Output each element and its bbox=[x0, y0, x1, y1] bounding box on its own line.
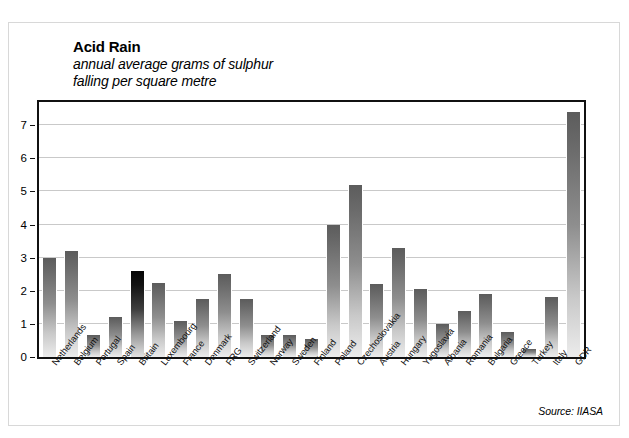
y-tick-label: 6 bbox=[7, 152, 27, 164]
x-axis-labels: NetherlandsBelgiumPortugalSpainBritainLu… bbox=[37, 361, 586, 423]
chart-figure: Acid Rain annual average grams of sulphu… bbox=[8, 22, 620, 426]
page-title: Acid Rain bbox=[73, 38, 273, 56]
chart-title-block: Acid Rain annual average grams of sulphu… bbox=[73, 38, 273, 89]
bar bbox=[42, 258, 57, 357]
y-tick-label: 5 bbox=[7, 185, 27, 197]
y-tick-label: 4 bbox=[7, 219, 27, 231]
y-tick-mark bbox=[30, 191, 35, 192]
chart-subtitle-line-1: annual average grams of sulphur bbox=[73, 56, 273, 73]
y-tick-mark bbox=[30, 158, 35, 159]
y-tick-label: 0 bbox=[7, 351, 27, 363]
y-tick-mark bbox=[30, 357, 35, 358]
y-tick-mark bbox=[30, 291, 35, 292]
chart-subtitle-line-2: falling per square metre bbox=[73, 73, 273, 90]
y-tick-mark bbox=[30, 125, 35, 126]
bar bbox=[326, 225, 341, 357]
bar bbox=[566, 112, 581, 357]
y-tick-mark bbox=[30, 324, 35, 325]
bar bbox=[348, 185, 363, 357]
y-tick-label: 7 bbox=[7, 119, 27, 131]
y-tick-label: 3 bbox=[7, 252, 27, 264]
bar-series bbox=[39, 102, 584, 357]
y-tick-mark bbox=[30, 225, 35, 226]
source-attribution: Source: IIASA bbox=[538, 405, 603, 417]
y-tick-label: 2 bbox=[7, 285, 27, 297]
plot-area bbox=[37, 100, 586, 359]
y-tick-label: 1 bbox=[7, 318, 27, 330]
y-tick-mark bbox=[30, 258, 35, 259]
bar bbox=[239, 299, 254, 357]
y-axis: 01234567 bbox=[9, 100, 35, 359]
